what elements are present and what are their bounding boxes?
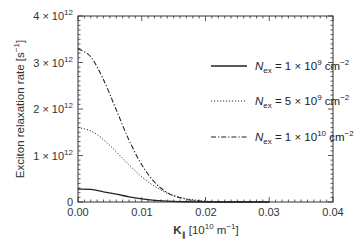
legend-label-1e9: Nex = 1 × 109 cm−2: [255, 58, 350, 75]
x-tick-1: 0.01: [131, 206, 152, 218]
legend-label-5e9: Nex = 5 × 109 cm−2: [255, 93, 350, 110]
y-tick-3: 3 × 1012: [33, 55, 73, 69]
x-axis-label: K∥ [1010 m−1]: [173, 222, 239, 239]
legend-label-1e10: Nex = 1 × 1010 cm−2: [255, 129, 354, 146]
series-line-5e9: [78, 128, 269, 202]
x-tick-labels: 0.00 0.01 0.02 0.03 0.04: [67, 206, 343, 218]
y-tick-4: 4 × 1012: [33, 8, 73, 22]
legend: Nex = 1 × 109 cm−2 Nex = 5 × 109 cm−2 Ne…: [211, 58, 354, 146]
y-axis-label: Exciton relaxation rate [s−1]: [12, 40, 26, 178]
x-tick-2: 0.02: [195, 206, 216, 218]
chart: 0 1 × 1012 2 × 1012 3 × 1012 4 × 1012 0.…: [0, 0, 356, 245]
y-tick-1: 1 × 1012: [33, 148, 73, 162]
x-tick-0: 0.00: [67, 206, 88, 218]
x-tick-4: 0.04: [322, 206, 343, 218]
y-tick-labels: 0 1 × 1012 2 × 1012 3 × 1012 4 × 1012: [33, 8, 73, 208]
series-line-1e10: [78, 49, 269, 202]
y-tick-2: 2 × 1012: [33, 101, 73, 115]
x-tick-3: 0.03: [258, 206, 279, 218]
